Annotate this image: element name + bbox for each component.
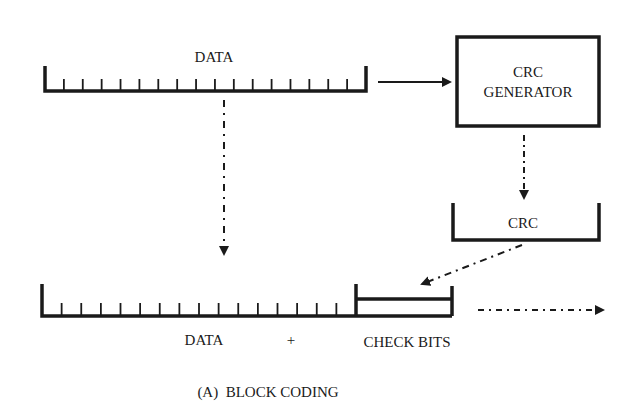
diagonal-dashed-arrow-icon — [422, 245, 522, 284]
check-bits-box — [356, 284, 452, 316]
top-data-label: DATA — [195, 49, 234, 65]
check-bits-label: CHECK BITS — [363, 334, 450, 350]
block-coding-diagram: DATA CRC GENERATOR CRC — [0, 0, 635, 420]
top-data-register — [45, 66, 366, 91]
crc-register-label: CRC — [508, 215, 538, 231]
diagram-caption: (A) BLOCK CODING — [197, 384, 338, 401]
bottom-data-label: DATA — [185, 332, 224, 348]
bottom-register — [42, 284, 452, 316]
generator-label-line2: GENERATOR — [484, 84, 573, 100]
crc-generator-box — [457, 37, 599, 126]
plus-sign: + — [287, 332, 295, 348]
generator-label-line1: CRC — [513, 64, 543, 80]
